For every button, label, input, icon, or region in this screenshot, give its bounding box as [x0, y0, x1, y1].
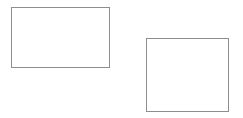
- rectangle-square[interactable]: [146, 38, 229, 112]
- drawing-canvas: [0, 0, 243, 118]
- rectangle-wide[interactable]: [11, 7, 110, 68]
